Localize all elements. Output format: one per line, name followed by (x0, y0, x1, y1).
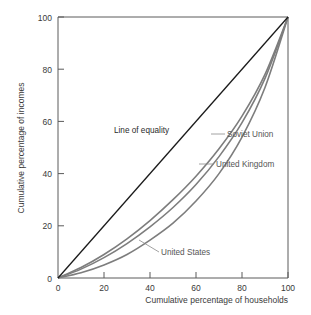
series-line-equality (58, 17, 288, 278)
y-tick-label-20: 20 (43, 221, 53, 231)
x-tick-label-20: 20 (99, 283, 109, 293)
y-tick-label-100: 100 (38, 13, 52, 23)
y-tick-label-0: 0 (47, 274, 52, 284)
annotation-leader-lines (139, 134, 225, 252)
x-tick-label-60: 60 (191, 283, 201, 293)
x-tick-labels: 0 20 40 60 80 100 (56, 283, 296, 293)
x-axis-title: Cumulative percentage of households (145, 295, 288, 305)
y-tick-labels: 100 80 60 40 20 0 (38, 13, 52, 284)
y-tick-label-40: 40 (43, 169, 53, 179)
x-axis-ticks (104, 272, 288, 278)
y-tick-label-60: 60 (43, 117, 53, 127)
series-label-united-states: United States (161, 248, 210, 257)
y-tick-label-80: 80 (43, 65, 53, 75)
x-tick-label-40: 40 (145, 283, 155, 293)
x-tick-label-100: 100 (281, 283, 295, 293)
x-tick-label-0: 0 (56, 283, 61, 293)
y-axis-title: Cumulative percentage of incomes (16, 83, 26, 214)
y-axis-ticks (58, 17, 64, 226)
data-series-group (58, 17, 288, 278)
series-label-soviet-union: Soviet Union (227, 130, 274, 139)
lorenz-curve-figure: 100 80 60 40 20 0 0 20 40 60 80 100 Cumu… (0, 0, 311, 315)
series-label-united-kingdom: United Kingdom (216, 160, 274, 169)
chart-canvas: 100 80 60 40 20 0 0 20 40 60 80 100 Cumu… (0, 0, 311, 315)
series-label-equality: Line of equality (114, 126, 170, 135)
x-tick-label-80: 80 (237, 283, 247, 293)
